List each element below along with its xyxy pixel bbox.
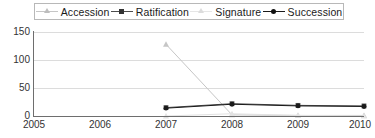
x-tick-2010: 2010 [349, 119, 371, 130]
data-point [362, 104, 367, 109]
data-point [230, 102, 235, 107]
data-point [163, 41, 169, 46]
y-axis-line [33, 31, 34, 117]
line-chart: Accession Ratification Signature Success… [0, 0, 375, 138]
legend-label-signature: Signature [215, 6, 261, 18]
plot-area [34, 32, 364, 116]
series-layer [34, 32, 364, 116]
x-tick-2005: 2005 [23, 119, 45, 130]
y-tick-150: 150 [0, 27, 30, 37]
legend-item-accession[interactable]: Accession [36, 4, 110, 19]
x-tick-2008: 2008 [221, 119, 243, 130]
data-point [164, 106, 169, 111]
chart-legend: Accession Ratification Signature Success… [34, 3, 344, 20]
y-tick-50: 50 [0, 83, 30, 93]
series-signature [163, 111, 367, 119]
series-succession [164, 102, 367, 111]
x-axis-line [33, 116, 364, 117]
series-ratification [164, 101, 367, 110]
data-point [296, 104, 301, 109]
legend-label-accession: Accession [61, 6, 110, 18]
y-axis-labels: 150 100 50 0 [0, 0, 30, 138]
legend-item-signature[interactable]: Signature [190, 4, 261, 19]
legend-marker-ratification [111, 7, 133, 16]
x-tick-2006: 2006 [89, 119, 111, 130]
x-axis-labels: 2005 2006 2007 2008 2009 2010 [0, 119, 375, 133]
y-tick-100: 100 [0, 55, 30, 65]
series-line [166, 104, 364, 108]
legend-label-ratification: Ratification [136, 6, 189, 18]
legend-marker-signature [190, 7, 212, 16]
legend-label-succession: Succession [288, 6, 343, 18]
series-line [166, 104, 364, 108]
legend-marker-succession [263, 7, 285, 16]
x-tick-2009: 2009 [287, 119, 309, 130]
legend-marker-accession [36, 7, 58, 16]
x-tick-2007: 2007 [155, 119, 177, 130]
legend-item-succession[interactable]: Succession [263, 4, 343, 19]
legend-item-ratification[interactable]: Ratification [111, 4, 189, 19]
